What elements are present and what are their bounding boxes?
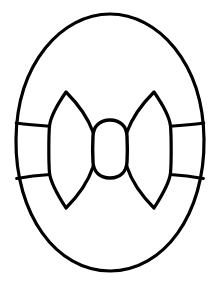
easter-egg-bow-illustration: Easter Egg with Bow Line drawing of an o… (0, 0, 220, 287)
coloring-page-artboard: Easter Egg with Bow Line drawing of an o… (0, 0, 220, 287)
bow-knot (93, 120, 128, 178)
